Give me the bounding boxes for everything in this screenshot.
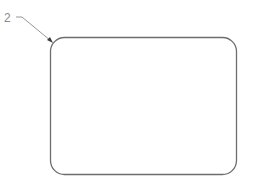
reference-numeral-2: 2 bbox=[4, 11, 11, 25]
leader-line bbox=[16, 17, 51, 41]
patent-figure: 2 bbox=[0, 0, 253, 183]
rounded-rectangle-element bbox=[51, 38, 237, 175]
